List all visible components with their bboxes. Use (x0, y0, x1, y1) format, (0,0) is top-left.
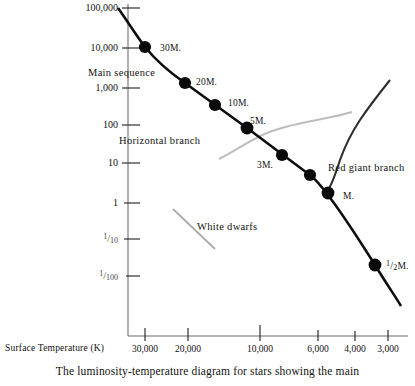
y-tick-label-10000: 10,000 (0, 43, 118, 53)
x-tick-label-3000: 3,000 (377, 345, 398, 355)
y-tick-label-100000: 100,000 (0, 3, 118, 13)
x-tick-label-20000: 20,000 (175, 345, 201, 355)
mass-label-3m: 3M. (257, 161, 273, 171)
dot-20m (179, 77, 191, 89)
dot-10m (209, 99, 221, 111)
x-tick-label-10000: 10,000 (247, 345, 273, 355)
y-tick-label-10: 10 (0, 158, 118, 168)
mass-label-10m: 10M. (228, 99, 249, 109)
y-tick-label-1000: 1,000 (0, 83, 118, 93)
x-tick-label-30000: 30,000 (132, 345, 158, 355)
x-tick-label-6000: 6,000 (307, 345, 328, 355)
label-main-sequence: Main sequence (88, 68, 155, 79)
mass-label-5m: 5M. (250, 117, 266, 127)
label-red-giant-branch: Red giant branch (328, 163, 405, 174)
label-horizontal-branch: Horizontal branch (119, 136, 200, 147)
y-tick-one-hundredth-denominator: 100 (106, 273, 118, 282)
hr-diagram-figure: 100,000 10,000 1,000 100 10 1 1/10 1/100… (0, 0, 415, 386)
y-tick-label-one-tenth: 1/10 (0, 233, 118, 245)
mass-label-1m: M. (343, 192, 354, 202)
y-tick-label-one-hundredth: 1/100 (0, 270, 118, 282)
x-tick-marks (145, 325, 388, 341)
label-white-dwarfs: White dwarfs (197, 222, 257, 233)
mass-label-30m: 30M. (160, 44, 181, 54)
mass-label-half-m: 1/2M. (386, 260, 409, 272)
y-tick-label-1: 1 (0, 198, 118, 208)
mass-label-20m: 20M. (196, 78, 217, 88)
x-axis-title: Surface Temperature (K) (5, 344, 104, 354)
dot-3m (276, 149, 288, 161)
figure-caption: The luminosity-temperature diagram for s… (0, 365, 415, 377)
dot-1m (322, 187, 335, 200)
y-tick-label-100: 100 (0, 120, 118, 130)
x-tick-label-4000: 4,000 (344, 345, 365, 355)
red-giant-branch-curve (327, 80, 390, 192)
dot-half-m (369, 259, 382, 272)
dot-30m (139, 41, 151, 53)
dot-2m (304, 169, 316, 181)
y-tick-one-tenth-denominator: 10 (110, 236, 118, 245)
